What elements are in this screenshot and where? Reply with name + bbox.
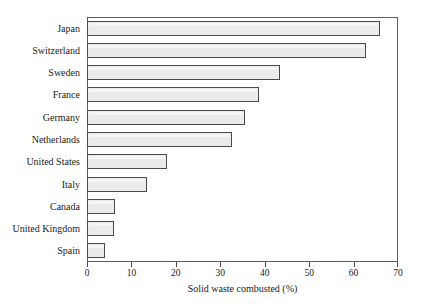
bar-row (87, 177, 398, 192)
category-label-italy: Italy (0, 179, 80, 190)
x-tick-mark (87, 262, 88, 267)
x-tick-mark (131, 262, 132, 267)
x-tick-mark (265, 262, 266, 267)
x-tick-label: 50 (294, 268, 324, 279)
bar-spain (87, 243, 105, 258)
x-tick-label: 30 (205, 268, 235, 279)
x-tick-label: 40 (250, 268, 280, 279)
bar-netherlands (87, 132, 232, 147)
category-label-netherlands: Netherlands (0, 134, 80, 145)
bar-united-kingdom (87, 221, 114, 236)
bar-united-states (87, 154, 167, 169)
bar-switzerland (87, 43, 366, 58)
x-tick-mark (354, 262, 355, 267)
category-label-france: France (0, 89, 80, 100)
x-tick-mark (176, 262, 177, 267)
bar-row (87, 199, 398, 214)
x-tick-mark (220, 262, 221, 267)
bar-japan (87, 21, 380, 36)
bar-row (87, 21, 398, 36)
bar-germany (87, 110, 245, 125)
bar-sweden (87, 65, 280, 80)
x-tick-mark (397, 262, 398, 267)
category-label-switzerland: Switzerland (0, 45, 80, 56)
x-tick-label: 20 (161, 268, 191, 279)
bar-row (87, 110, 398, 125)
bar-row (87, 132, 398, 147)
category-label-japan: Japan (0, 23, 80, 34)
bar-italy (87, 177, 147, 192)
x-tick-label: 70 (383, 268, 413, 279)
x-tick-label: 10 (116, 268, 146, 279)
bar-france (87, 87, 259, 102)
x-tick-label: 60 (339, 268, 369, 279)
x-axis-title: Solid waste combusted (%) (87, 283, 398, 295)
bar-chart: JapanSwitzerlandSwedenFranceGermanyNethe… (0, 0, 422, 304)
bar-row (87, 43, 398, 58)
category-axis-labels: JapanSwitzerlandSwedenFranceGermanyNethe… (0, 17, 84, 262)
category-label-united-states: United States (0, 156, 80, 167)
x-tick-mark (309, 262, 310, 267)
category-label-canada: Canada (0, 201, 80, 212)
bar-row (87, 221, 398, 236)
bar-canada (87, 199, 115, 214)
x-tick-label: 0 (72, 268, 102, 279)
bar-row (87, 87, 398, 102)
bar-row (87, 154, 398, 169)
category-label-germany: Germany (0, 112, 80, 123)
bar-row (87, 65, 398, 80)
bars-layer (87, 17, 398, 262)
category-label-spain: Spain (0, 245, 80, 256)
category-label-sweden: Sweden (0, 67, 80, 78)
category-label-united-kingdom: United Kingdom (0, 223, 80, 234)
bar-row (87, 243, 398, 258)
